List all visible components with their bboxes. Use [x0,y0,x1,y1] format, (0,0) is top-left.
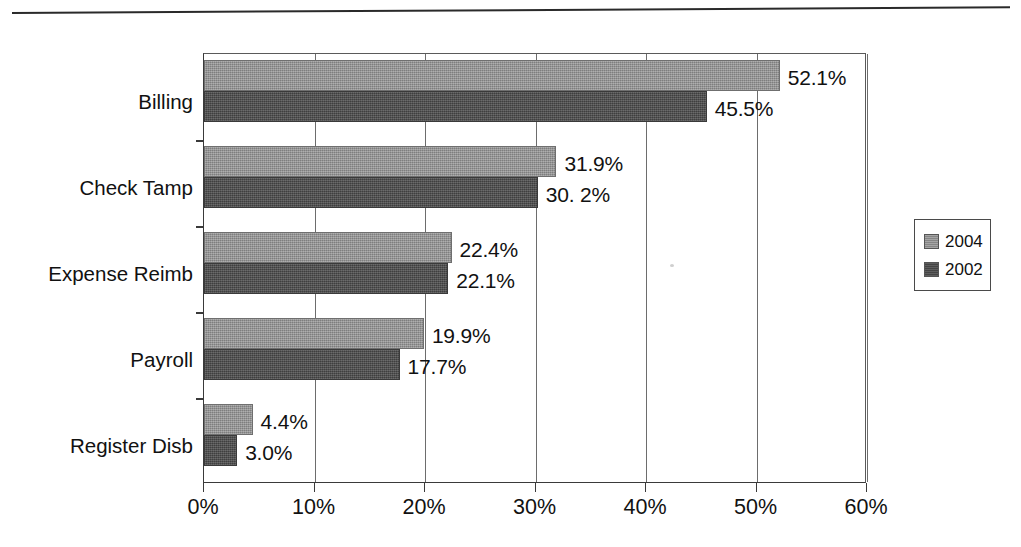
category-label-payroll: Payroll [3,350,193,371]
bar-2004[interactable] [204,60,780,91]
y-axis-tick [196,312,204,314]
bar-group: 4.4%3.0% [204,404,867,490]
x-axis-tick [203,483,204,492]
legend-item-2002[interactable]: 2002 [924,261,983,278]
x-axis-tick [535,483,536,492]
legend-label-2002: 2002 [945,261,983,278]
legend[interactable]: 2004 2002 [914,219,991,291]
gridline-60% [867,54,868,482]
x-axis-tick [866,483,867,492]
x-axis-label-60pct: 60% [844,497,887,519]
bar-2004[interactable] [204,232,452,263]
category-labels-group: BillingCheck TampExpense ReimbPayrollReg… [0,53,193,483]
bar-2002[interactable] [204,349,400,380]
bar-value-label: 22.4% [460,239,519,260]
category-label-check-tamp: Check Tamp [3,178,193,199]
legend-swatch-2002-icon [924,262,939,277]
bar-chart-figure: 52.1%45.5%31.9%30. 2%22.4%22.1%19.9%17.7… [0,0,1021,547]
x-axis-tick [645,483,646,492]
category-label-register-disb: Register Disb [3,436,193,457]
x-axis-label-20pct: 20% [402,497,445,519]
bar-value-label: 17.7% [408,356,467,377]
x-axis-tick [314,483,315,492]
x-axis-label-10pct: 10% [292,497,335,519]
legend-swatch-2004-icon [924,234,939,249]
bar-2004[interactable] [204,404,253,435]
bar-value-label: 30. 2% [546,184,610,205]
legend-item-2004[interactable]: 2004 [924,233,983,250]
y-axis-tick [196,226,204,228]
bar-value-label: 19.9% [432,325,491,346]
category-label-billing: Billing [3,92,193,113]
x-axis-tick [756,483,757,492]
bar-2002[interactable] [204,91,707,122]
bar-value-label: 31.9% [564,153,623,174]
bar-group: 22.4%22.1% [204,232,867,318]
y-axis-tick [196,140,204,142]
x-axis-label-40pct: 40% [623,497,666,519]
x-axis-tick [424,483,425,492]
bar-value-label: 45.5% [715,98,774,119]
bar-group: 31.9%30. 2% [204,146,867,232]
bar-2002[interactable] [204,263,448,294]
plot-area: 52.1%45.5%31.9%30. 2%22.4%22.1%19.9%17.7… [203,53,866,483]
legend-label-2004: 2004 [945,233,983,250]
top-horizontal-rule [12,6,1010,14]
bar-value-label: 52.1% [788,67,847,88]
bar-value-label: 4.4% [261,411,308,432]
bar-group: 19.9%17.7% [204,318,867,404]
x-axis-label-50pct: 50% [734,497,777,519]
x-axis-label-0pct: 0% [187,497,218,519]
bar-2002[interactable] [204,177,538,208]
bar-value-label: 3.0% [245,442,292,463]
bar-value-label: 22.1% [456,270,515,291]
bar-group: 52.1%45.5% [204,60,867,146]
bar-2004[interactable] [204,146,556,177]
bar-2002[interactable] [204,435,237,466]
x-axis-label-30pct: 30% [513,497,556,519]
category-label-expense-reimb: Expense Reimb [3,264,193,285]
bar-2004[interactable] [204,318,424,349]
y-axis-tick [196,398,204,400]
